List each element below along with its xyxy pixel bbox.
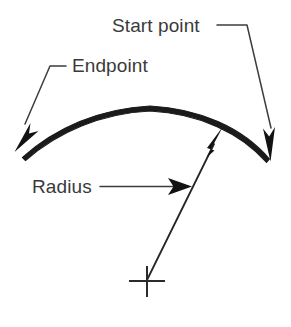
start-point-leader-line [217,25,271,128]
start-point-label: Start point [112,15,200,36]
radius-dimension [147,127,224,282]
radius-arrowhead [207,127,224,158]
diagram-canvas: Start point Endpoint Radius [0,0,291,327]
endpoint-label: Endpoint [72,55,148,76]
center-point-mark [129,266,165,297]
annotation-radius: Radius [32,176,192,197]
arc-diagram: Start point Endpoint Radius [0,0,291,327]
annotation-start-point: Start point [112,15,275,162]
annotation-endpoint: Endpoint [15,55,149,152]
endpoint-leader-line [25,66,66,124]
arc-shape [23,106,270,163]
radius-label: Radius [32,176,92,197]
radius-line [147,144,215,281]
arc-curve [23,106,270,163]
